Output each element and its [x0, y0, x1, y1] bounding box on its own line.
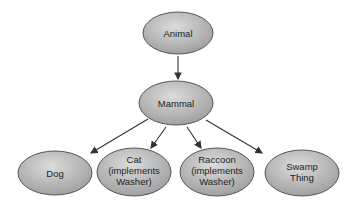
node-animal: Animal — [143, 12, 213, 54]
node-label: Mammal — [158, 98, 194, 109]
node-label: Dog — [46, 168, 63, 179]
node-label: (implements — [191, 165, 243, 176]
node-label: Animal — [163, 28, 192, 39]
node-mammal: Mammal — [139, 81, 213, 125]
node-label: Cat — [127, 154, 142, 165]
edge-mammal-raccoon — [187, 127, 201, 148]
node-label: Swamp — [286, 161, 318, 172]
node-cat: Cat (implements Washer) — [97, 148, 171, 196]
class-hierarchy-diagram: Animal Mammal Dog Cat (implements Washer… — [0, 0, 350, 210]
node-dog: Dog — [18, 151, 92, 195]
node-swamp-thing: Swamp Thing — [265, 150, 339, 196]
node-label: Thing — [290, 172, 314, 183]
node-label: (implements — [108, 165, 160, 176]
node-raccoon: Raccoon (implements Washer) — [180, 148, 254, 196]
node-label: Raccoon — [198, 154, 236, 165]
node-label: Washer) — [199, 176, 235, 187]
node-label: Washer) — [116, 176, 152, 187]
edge-mammal-cat — [151, 127, 166, 148]
